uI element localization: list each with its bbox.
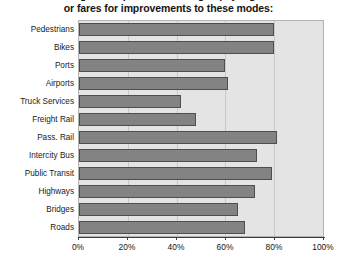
bars-layer	[79, 21, 323, 236]
axis-tick-label: 60%	[217, 242, 234, 252]
axis-tick	[78, 237, 79, 240]
axis-tick-label: 0%	[72, 242, 84, 252]
bar	[79, 59, 225, 72]
bar	[79, 131, 277, 144]
category-label: Pedestrians	[0, 25, 74, 34]
axis-tick-label: 80%	[266, 242, 283, 252]
axis-tick	[127, 237, 128, 240]
category-label: Ports	[0, 61, 74, 70]
category-label: Bikes	[0, 43, 74, 52]
axis-tick-label: 40%	[168, 242, 185, 252]
chart-title: Percentage of respondents willing to pay…	[0, 0, 337, 14]
axis-tick-label: 100%	[312, 242, 333, 252]
axis-tick	[225, 237, 226, 240]
value-axis-line	[78, 237, 325, 238]
bar	[79, 203, 238, 216]
category-label: Highways	[0, 187, 74, 196]
category-label: Intercity Bus	[0, 151, 74, 160]
bar	[79, 149, 257, 162]
category-label: Public Transit	[0, 169, 74, 178]
bar	[79, 185, 255, 198]
category-label: Bridges	[0, 205, 74, 214]
category-label: Roads	[0, 223, 74, 232]
axis-tick	[176, 237, 177, 240]
category-label: Truck Services	[0, 97, 74, 106]
bar-chart: Percentage of respondents willing to pay…	[0, 0, 337, 260]
category-axis-labels: PedestriansBikesPortsAirportsTruck Servi…	[0, 20, 74, 237]
category-label: Pass. Rail	[0, 133, 74, 142]
bar	[79, 167, 272, 180]
category-label: Freight Rail	[0, 115, 74, 124]
bar	[79, 23, 274, 36]
category-label: Airports	[0, 79, 74, 88]
axis-tick	[274, 237, 275, 240]
axis-tick-label: 20%	[119, 242, 136, 252]
bar	[79, 77, 228, 90]
bar	[79, 41, 274, 54]
axis-tick	[323, 237, 324, 240]
bar	[79, 113, 196, 126]
bar	[79, 221, 245, 234]
bar	[79, 95, 181, 108]
